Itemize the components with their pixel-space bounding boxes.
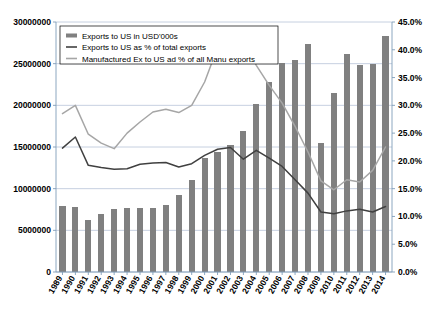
bar-2012 (357, 65, 363, 273)
y-axis-tick-label: 15000000 (13, 142, 51, 152)
secondary-y-axis-tick-label: 0.0% (398, 267, 418, 277)
line-series (62, 137, 385, 214)
secondary-y-axis-tick-label: 15.0% (398, 184, 423, 194)
legend-label: Exports to US in USD'000s (82, 32, 178, 41)
bar-1998 (176, 195, 182, 272)
x-axis-tick-label-2014: 2014 (369, 274, 387, 296)
y-axis-tick-label: 25000000 (13, 59, 51, 69)
bar-1989 (59, 206, 65, 272)
secondary-y-axis-tick-label: 5.0% (398, 239, 418, 249)
bar-2007 (292, 60, 298, 273)
bar-2005 (266, 82, 272, 272)
y-axis-tick-label: 0 (46, 267, 51, 277)
x-axis-tick-labels: 1989199019911992199319941995199619971998… (46, 274, 387, 296)
bar-series (59, 36, 388, 272)
bar-2000 (202, 158, 208, 272)
bar-2009 (318, 143, 324, 272)
bar-2011 (344, 54, 350, 272)
bar-1990 (72, 207, 78, 272)
secondary-y-axis-tick-label: 35.0% (398, 73, 423, 83)
bar-2010 (331, 93, 337, 272)
bar-2004 (253, 104, 259, 272)
bar-1992 (98, 214, 104, 272)
secondary-y-axis-tick-label: 30.0% (398, 100, 423, 110)
y-axis-tick-labels: 0500000010000000150000002000000025000000… (13, 17, 51, 277)
secondary-y-axis-tick-label: 45.0% (398, 17, 423, 27)
legend-label: Exports to US as % of total exports (82, 43, 206, 52)
bar-1995 (137, 208, 143, 272)
y-axis-tick-label: 20000000 (13, 100, 51, 110)
secondary-y-axis-tick-label: 40.0% (398, 45, 423, 55)
y-axis-tick-label: 30000000 (13, 17, 51, 27)
legend-label: Manufactured Ex to US ad % of all Manu e… (82, 55, 255, 64)
secondary-y-axis-tick-label: 20.0% (398, 156, 423, 166)
bar-2014 (382, 36, 388, 272)
y-axis-tick-label: 5000000 (18, 225, 51, 235)
bar-2001 (214, 152, 220, 272)
bar-2003 (240, 131, 246, 272)
bar-1997 (163, 205, 169, 273)
bar-1999 (189, 180, 195, 272)
secondary-y-axis-tick-label: 10.0% (398, 211, 423, 221)
bar-1991 (85, 220, 91, 273)
chart-container: 0500000010000000150000002000000025000000… (0, 0, 436, 317)
chart-legend: Exports to US in USD'000sExports to US a… (60, 26, 278, 64)
y-axis-tick-label: 10000000 (13, 184, 51, 194)
secondary-y-axis-tick-label: 25.0% (398, 128, 423, 138)
legend-marker-bar (66, 34, 77, 38)
bar-1996 (150, 208, 156, 272)
secondary-y-axis-tick-labels: 0.0%5.0%10.0%15.0%20.0%25.0%30.0%35.0%40… (398, 17, 423, 277)
bar-1993 (111, 209, 117, 272)
bar-2002 (227, 145, 233, 272)
exports-to-us-combo-chart: 0500000010000000150000002000000025000000… (0, 0, 436, 317)
bar-1994 (124, 208, 130, 272)
